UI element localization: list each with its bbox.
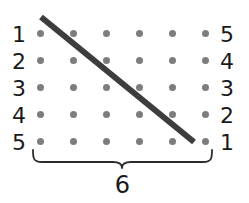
count-label-text: 6 xyxy=(115,171,130,199)
figure-canvas: 1 2 3 4 5 5 4 3 2 1 6 xyxy=(0,0,249,203)
count-label: 6 xyxy=(0,172,249,198)
